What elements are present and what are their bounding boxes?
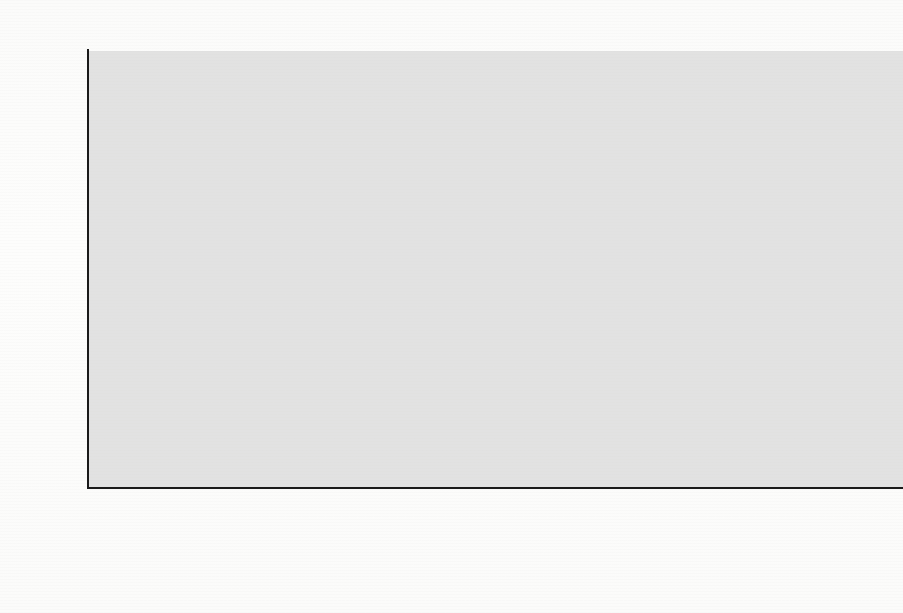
x-axis-line — [87, 487, 903, 489]
y-axis-tick-labels — [0, 0, 76, 613]
teu-bar-chart — [0, 0, 903, 613]
bar-series-group — [0, 0, 903, 487]
y-axis-line — [87, 49, 89, 489]
